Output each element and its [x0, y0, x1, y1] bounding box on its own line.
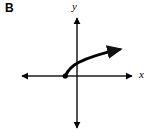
y-axis-label: y: [72, 1, 77, 12]
math-figure-panel: B y x: [0, 0, 154, 132]
coordinate-plane-graphic: [0, 0, 154, 132]
function-curve: [66, 49, 120, 75]
x-axis-label: x: [139, 69, 144, 80]
curve-endpoint-dot: [63, 73, 68, 78]
